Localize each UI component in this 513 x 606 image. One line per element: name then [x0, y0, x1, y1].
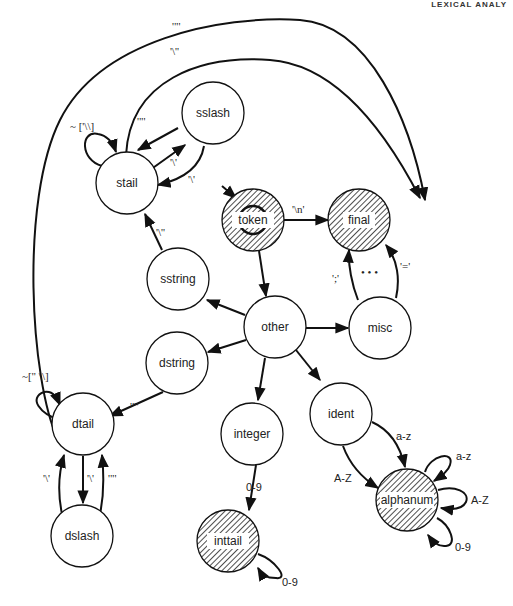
label-sslash: sslash	[196, 106, 230, 120]
edge-dslash-dtail-2	[100, 455, 103, 514]
state-diagram: sslash stail token final sstring other m…	[0, 0, 513, 606]
label-misc-ellipsis: • • •	[361, 266, 378, 278]
edge-stail-sslash	[150, 145, 185, 170]
label-final: final	[348, 213, 370, 227]
edge-sslash-stail-1	[138, 128, 178, 150]
edge-other-dstring	[208, 340, 246, 352]
label-edge-dtail-self: ~[" \\]	[22, 370, 49, 382]
label-edge-stail-final: '\''	[170, 45, 179, 57]
label-dtail: dtail	[72, 417, 94, 431]
label-edge-misc-final-left: ';'	[332, 272, 339, 284]
label-edge-alphanum-self-09: 0-9	[455, 541, 471, 553]
edge-token-other	[259, 251, 266, 296]
edge-misc-final-right	[386, 245, 398, 298]
label-edge-token-final: '\n'	[292, 203, 305, 215]
label-stail: stail	[116, 176, 137, 190]
label-edge-sstring-stail: '\''	[156, 226, 165, 238]
edge-stail-final	[126, 59, 420, 198]
label-dstring: dstring	[159, 356, 195, 370]
edge-dslash-dtail-1	[59, 455, 64, 514]
label-edge-ident-alphanum-az: a-z	[396, 430, 411, 442]
label-edge-sslash-stail-2: '\'	[188, 173, 195, 185]
label-dslash: dslash	[65, 529, 100, 543]
edge-alphanum-self-AZ	[438, 488, 467, 509]
label-edge-alphanum-self-AZ: A-Z	[471, 494, 489, 506]
edge-inttail-self	[258, 554, 282, 578]
edge-ident-alphanum-az	[372, 422, 405, 467]
edge-other-ident	[296, 350, 320, 380]
label-inttail: inttail	[214, 534, 242, 548]
label-integer: integer	[234, 427, 271, 441]
label-token: token	[238, 213, 267, 227]
label-edge-dstring-dtail: '"'	[130, 400, 138, 412]
label-ident: ident	[328, 407, 355, 421]
label-edge-alphanum-self-az: a-z	[456, 450, 471, 462]
label-edge-dtail-final: '"'	[172, 20, 180, 32]
label-edge-dslash-dtail-1: '\'	[43, 472, 50, 484]
label-other: other	[261, 320, 288, 334]
label-misc: misc	[368, 321, 393, 335]
edge-other-integer	[258, 358, 265, 400]
edge-misc-final-left	[349, 250, 358, 300]
label-edge-ident-alphanum-AZ: A-Z	[334, 472, 352, 484]
label-edge-misc-final-right: '='	[400, 260, 410, 272]
edge-other-sstring	[207, 300, 245, 315]
label-alphanum: alphanum	[381, 493, 434, 507]
edge-alphanum-self-09	[428, 518, 452, 546]
label-sstring: sstring	[160, 272, 195, 286]
label-edge-dtail-dslash: '\'	[87, 472, 94, 484]
label-edge-dslash-dtail-2: '"'	[108, 472, 116, 484]
label-edge-integer-inttail: 0-9	[246, 481, 262, 493]
label-edge-stail-sslash: '"'	[137, 115, 145, 127]
label-edge-inttail-self: 0-9	[282, 576, 298, 588]
label-edge-sslash-stail-1: '\'	[170, 156, 177, 168]
label-edge-stail-self: ~ ['\\]	[70, 120, 94, 132]
edge-sslash-stail-2	[158, 146, 204, 185]
